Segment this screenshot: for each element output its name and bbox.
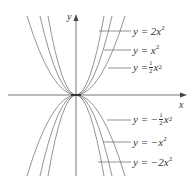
x-axis-arrow-icon: [180, 93, 187, 98]
parabola-family-figure: [0, 0, 195, 179]
label-neg-2x2: y = −2x2: [133, 156, 172, 168]
label-2x2: y = 2x2: [133, 25, 165, 37]
y-axis-label: y: [67, 12, 71, 22]
label-neg-half-x2: y = − 12 x2: [133, 112, 172, 127]
label-half-x2: y = 12 x2: [133, 60, 162, 75]
y-axis-arrow-icon: [74, 14, 79, 21]
x-axis-label: x: [179, 100, 183, 110]
label-neg-x2: y = −x2: [133, 136, 167, 148]
label-x2: y = x2: [133, 44, 159, 56]
